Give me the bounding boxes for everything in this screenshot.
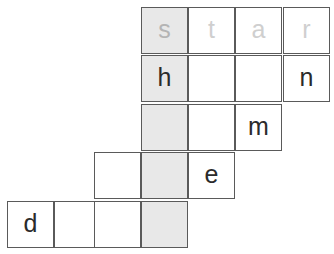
- grid-cell-letter-e[interactable]: e: [188, 152, 235, 199]
- grid-cell-empty[interactable]: [141, 201, 188, 248]
- grid-cell-empty[interactable]: [141, 104, 188, 151]
- grid-cell-empty[interactable]: [188, 55, 235, 102]
- grid-cell-letter-m[interactable]: m: [235, 104, 282, 151]
- grid-cell-empty[interactable]: [94, 152, 141, 199]
- cell-letter: t: [208, 17, 215, 42]
- grid-cell-empty[interactable]: [141, 152, 188, 199]
- grid-cell-letter-h[interactable]: h: [141, 55, 188, 102]
- grid-cell-empty[interactable]: [94, 201, 141, 248]
- grid-cell-letter-t[interactable]: t: [188, 7, 235, 54]
- grid-cell-letter-a[interactable]: a: [235, 7, 282, 54]
- grid-cell-empty[interactable]: [188, 104, 235, 151]
- cell-letter: s: [158, 17, 171, 42]
- cell-letter: n: [300, 65, 314, 90]
- cell-letter: a: [252, 17, 266, 42]
- grid-cell-letter-n[interactable]: n: [283, 55, 330, 102]
- grid-cell-letter-s[interactable]: s: [141, 7, 188, 54]
- cell-letter: r: [302, 17, 310, 42]
- cell-letter: h: [158, 65, 172, 90]
- grid-cell-letter-d[interactable]: d: [7, 201, 54, 248]
- cell-letter: d: [24, 211, 38, 236]
- cell-letter: e: [205, 162, 219, 187]
- cell-letter: m: [248, 114, 269, 139]
- grid-cell-letter-r[interactable]: r: [283, 7, 330, 54]
- grid-cell-empty[interactable]: [235, 55, 282, 102]
- puzzle-grid: starhnmed: [0, 0, 334, 254]
